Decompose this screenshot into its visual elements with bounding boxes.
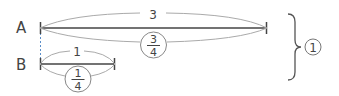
curly-brace [288, 14, 301, 80]
tape-diagram: A B 3 3 4 1 1 4 1 [0, 0, 339, 96]
tape-b-fraction-denominator: 4 [75, 80, 82, 93]
label-b: B [16, 56, 26, 74]
tape-b: 1 1 4 [40, 45, 115, 93]
tape-a-fraction-numerator: 3 [150, 33, 157, 46]
label-a: A [16, 19, 27, 37]
tape-b-fraction-numerator: 1 [75, 67, 82, 80]
tape-a-top-value: 3 [149, 8, 157, 22]
answer-marker-number: 1 [309, 41, 317, 55]
tape-b-top-value: 1 [73, 45, 81, 59]
tape-a-fraction-denominator: 4 [150, 46, 157, 59]
